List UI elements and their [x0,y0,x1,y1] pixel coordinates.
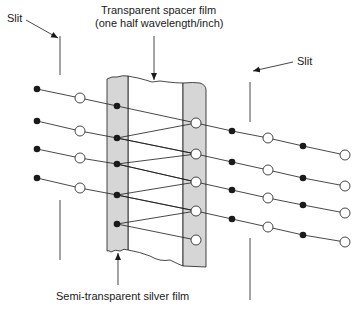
open-node [191,149,201,159]
filled-node [300,175,307,182]
filled-node [34,86,41,93]
open-node [263,165,273,175]
filled-node [300,202,307,209]
open-node [191,235,201,245]
filled-node [114,192,121,199]
label-spacer-film-line1: Transparent spacer film [101,4,216,17]
open-node [263,222,273,232]
filled-node [300,232,307,239]
open-node [340,150,350,160]
open-node [75,183,85,193]
open-node [263,133,273,143]
filled-node [114,161,121,168]
label-silver-film: Semi-transparent silver film [56,290,189,303]
open-node [191,177,201,187]
filled-node [34,175,41,182]
open-node [75,153,85,163]
open-node [340,237,350,247]
label-spacer-film-line2: (one half wavelength/inch) [95,17,223,30]
open-node [75,93,85,103]
slit-left-arrow [26,20,58,38]
filled-node [114,221,121,228]
open-node [340,181,350,191]
filled-node [229,159,236,166]
transparent-spacer-film [128,76,183,266]
open-node [191,206,201,216]
interference-diagram [0,0,360,310]
filled-node [229,187,236,194]
open-node [75,126,85,136]
label-slit-left: Slit [7,12,22,25]
filled-node [34,118,41,125]
slit-right-arrow [253,62,293,71]
filled-node [229,216,236,223]
filled-node [34,146,41,153]
filled-node [229,128,236,135]
filled-node [300,143,307,150]
label-slit-right: Slit [297,55,312,68]
filled-node [114,103,121,110]
filled-node [114,135,121,142]
open-node [263,193,273,203]
open-node [191,118,201,128]
open-node [340,208,350,218]
